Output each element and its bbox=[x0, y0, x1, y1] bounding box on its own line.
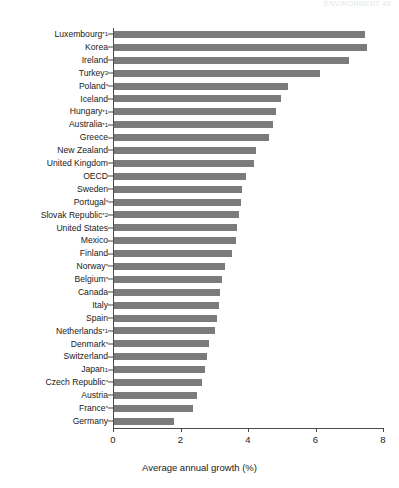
y-axis-tick bbox=[108, 176, 113, 177]
bar bbox=[114, 160, 254, 167]
bar-row-label: Australia*1 bbox=[0, 118, 108, 131]
y-axis-tick bbox=[108, 343, 113, 344]
bar-track bbox=[114, 402, 384, 415]
bar-track bbox=[114, 41, 384, 54]
y-axis-tick bbox=[108, 305, 113, 306]
bar-track bbox=[114, 183, 384, 196]
bar-row: Mexico bbox=[0, 234, 399, 247]
bar-row: United States bbox=[0, 221, 399, 234]
y-axis-tick bbox=[108, 137, 113, 138]
bar-track bbox=[114, 312, 384, 325]
bar bbox=[114, 379, 202, 386]
bar-row: Hungary*1 bbox=[0, 105, 399, 118]
bar-track bbox=[114, 337, 384, 350]
y-axis-tick bbox=[108, 73, 113, 74]
bar-row-label: Iceland bbox=[0, 92, 108, 105]
bar bbox=[114, 199, 241, 206]
bar bbox=[114, 276, 222, 283]
bar-row: Turkey3 bbox=[0, 67, 399, 80]
bar-row-label: Denmark* bbox=[0, 337, 108, 350]
bar bbox=[114, 302, 219, 309]
bar-track bbox=[114, 299, 384, 312]
y-axis-tick bbox=[108, 369, 113, 370]
bar bbox=[114, 392, 197, 399]
bar-row: Iceland bbox=[0, 92, 399, 105]
y-axis-tick bbox=[108, 124, 113, 125]
y-axis-tick bbox=[108, 292, 113, 293]
x-axis-tick bbox=[383, 428, 384, 432]
bar bbox=[114, 173, 246, 180]
bar-row-label: Belgium* bbox=[0, 273, 108, 286]
bar-row-label: Switzerland bbox=[0, 350, 108, 363]
bar-track bbox=[114, 286, 384, 299]
bar-track bbox=[114, 105, 384, 118]
bar bbox=[114, 108, 276, 115]
bar-row-label: New Zealand bbox=[0, 144, 108, 157]
bar-row-label: Japan1 bbox=[0, 363, 108, 376]
bar bbox=[114, 315, 217, 322]
bar-row-label: Portugal* bbox=[0, 196, 108, 209]
bar-track bbox=[114, 324, 384, 337]
bar-row: Norway* bbox=[0, 260, 399, 273]
x-axis-tick bbox=[113, 428, 114, 432]
bar-track bbox=[114, 247, 384, 260]
bar-track bbox=[114, 273, 384, 286]
bar-row-label: Sweden bbox=[0, 183, 108, 196]
bar-track bbox=[114, 131, 384, 144]
bar-track bbox=[114, 54, 384, 67]
bar-track bbox=[114, 157, 384, 170]
y-axis-tick bbox=[108, 421, 113, 422]
bar-track bbox=[114, 260, 384, 273]
bar-row: Korea bbox=[0, 41, 399, 54]
bar-row: Poland* bbox=[0, 80, 399, 93]
bar bbox=[114, 250, 232, 257]
bar bbox=[114, 186, 242, 193]
bar-row-label: Ireland bbox=[0, 54, 108, 67]
bar-row-label: Italy bbox=[0, 299, 108, 312]
bar-row-label: OECD bbox=[0, 170, 108, 183]
bar bbox=[114, 31, 365, 38]
bar bbox=[114, 211, 239, 218]
bar-row: Italy bbox=[0, 299, 399, 312]
bar-row: France* bbox=[0, 402, 399, 415]
bar-row-label: Canada bbox=[0, 286, 108, 299]
bar bbox=[114, 418, 174, 425]
x-axis-tick bbox=[248, 428, 249, 432]
bar-row: Finland bbox=[0, 247, 399, 260]
x-axis-ticks: 02468 bbox=[113, 428, 383, 456]
y-axis-tick bbox=[108, 86, 113, 87]
y-axis-tick bbox=[108, 395, 113, 396]
bar-track bbox=[114, 415, 384, 428]
x-axis-tick-label: 6 bbox=[313, 434, 318, 445]
x-axis-tick-label: 2 bbox=[178, 434, 183, 445]
bar-row-label: Slovak Republic*2 bbox=[0, 208, 108, 221]
x-axis-tick bbox=[181, 428, 182, 432]
bar bbox=[114, 237, 236, 244]
bar-chart: Luxembourg*1KoreaIrelandTurkey3Poland*Ic… bbox=[0, 0, 399, 488]
bar-row-label: Finland bbox=[0, 247, 108, 260]
bar-row-label: Luxembourg*1 bbox=[0, 28, 108, 41]
bar bbox=[114, 327, 215, 334]
bar bbox=[114, 147, 256, 154]
bar-track bbox=[114, 376, 384, 389]
bar-row-label: Czech Republic* bbox=[0, 376, 108, 389]
bar-row: Austria bbox=[0, 389, 399, 402]
y-axis-tick bbox=[108, 240, 113, 241]
y-axis-tick bbox=[108, 253, 113, 254]
y-axis-tick bbox=[108, 356, 113, 357]
bar-track bbox=[114, 208, 384, 221]
bar-track bbox=[114, 363, 384, 376]
bar-track bbox=[114, 389, 384, 402]
bar-row: Netherlands*1 bbox=[0, 324, 399, 337]
bar bbox=[114, 44, 367, 51]
bar-track bbox=[114, 67, 384, 80]
bar-track bbox=[114, 118, 384, 131]
y-axis-tick bbox=[108, 111, 113, 112]
bar-row: Belgium* bbox=[0, 273, 399, 286]
bar-track bbox=[114, 234, 384, 247]
bar bbox=[114, 134, 269, 141]
bar bbox=[114, 121, 273, 128]
bar-row: Japan1 bbox=[0, 363, 399, 376]
bar-row: Luxembourg*1 bbox=[0, 28, 399, 41]
x-axis-title: Average annual growth (%) bbox=[0, 462, 399, 473]
